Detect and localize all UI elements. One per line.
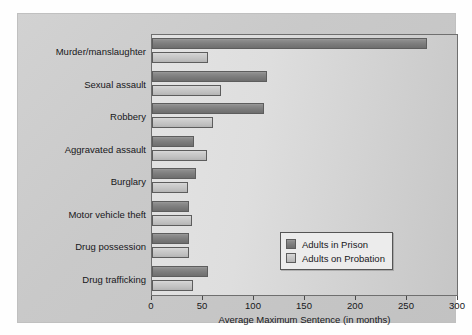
legend-label: Adults in Prison: [302, 239, 368, 250]
x-axis-tick-label: 300: [449, 300, 465, 311]
bar: [152, 117, 213, 128]
x-axis-tick-label: 250: [398, 300, 414, 311]
bar-group: [152, 103, 458, 133]
bar: [152, 233, 189, 244]
x-axis-tick-label: 200: [347, 300, 363, 311]
bar-group: [152, 168, 458, 198]
category-label: Robbery: [110, 111, 146, 122]
bar: [152, 215, 192, 226]
bar: [152, 182, 188, 193]
legend-item: Adults on Probation: [286, 251, 385, 265]
category-label: Drug possession: [75, 241, 146, 252]
chart-panel: Murder/manslaughterSexual assaultRobbery…: [18, 14, 455, 322]
bar-group: [152, 136, 458, 166]
bar: [152, 168, 196, 179]
category-label: Motor vehicle theft: [68, 209, 146, 220]
bar: [152, 150, 207, 161]
category-axis-labels: Murder/manslaughterSexual assaultRobbery…: [38, 35, 146, 295]
bar: [152, 52, 208, 63]
x-axis-tick-label: 100: [245, 300, 261, 311]
bar-group: [152, 71, 458, 101]
bar: [152, 85, 221, 96]
bar-group: [152, 38, 458, 68]
bar: [152, 103, 264, 114]
x-axis-tick-label: 150: [296, 300, 312, 311]
legend-label: Adults on Probation: [302, 253, 385, 264]
bar: [152, 280, 193, 291]
bar: [152, 201, 189, 212]
legend-swatch-icon: [286, 239, 296, 249]
bar: [152, 247, 189, 258]
x-axis-tick-label: 50: [197, 300, 208, 311]
category-label: Aggravated assault: [65, 144, 146, 155]
category-label: Murder/manslaughter: [56, 46, 146, 57]
bar: [152, 136, 194, 147]
x-axis-title: Average Maximum Sentence (in months): [151, 314, 458, 325]
category-label: Burglary: [111, 176, 146, 187]
chart-legend: Adults in PrisonAdults on Probation: [280, 232, 393, 270]
bar: [152, 71, 267, 82]
category-label: Drug trafficking: [82, 274, 146, 285]
bar-group: [152, 201, 458, 231]
category-label: Sexual assault: [84, 79, 146, 90]
x-axis-tick-label: 0: [148, 300, 153, 311]
bar: [152, 38, 427, 49]
legend-item: Adults in Prison: [286, 237, 385, 251]
bar-chart-figure: Murder/manslaughterSexual assaultRobbery…: [0, 0, 472, 335]
legend-swatch-icon: [286, 253, 296, 263]
bar: [152, 266, 208, 277]
